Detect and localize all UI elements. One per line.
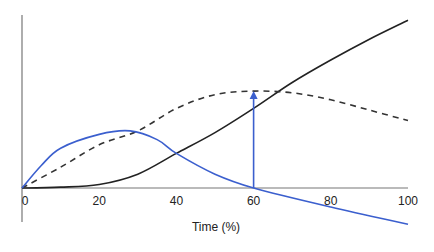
series-blue-solid xyxy=(22,131,408,225)
series-black-solid xyxy=(22,20,408,188)
x-tick-label: 60 xyxy=(247,194,261,208)
line-chart: 020406080100 Time (%) xyxy=(0,0,434,252)
x-tick-label: 20 xyxy=(93,194,107,208)
x-tick-label: 0 xyxy=(22,194,29,208)
x-tick-label: 100 xyxy=(398,194,418,208)
x-axis-title: Time (%) xyxy=(192,220,240,234)
x-tick-labels: 020406080100 xyxy=(22,194,419,208)
x-tick-label: 40 xyxy=(170,194,184,208)
arrow-head-icon xyxy=(250,91,258,99)
x-tick-label: 80 xyxy=(324,194,338,208)
